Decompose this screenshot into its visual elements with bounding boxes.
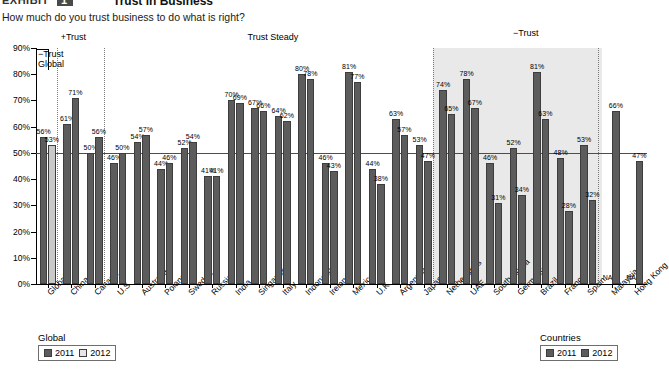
bar-value-label: 46% xyxy=(161,154,179,161)
bar-russia-2012[interactable] xyxy=(213,176,221,284)
bar-uae-2012[interactable] xyxy=(471,108,479,284)
section-header-1: Trust Steady xyxy=(248,32,299,42)
bar-value-label: 66% xyxy=(607,102,625,109)
bar-south-korea-2012[interactable] xyxy=(495,203,503,284)
bar-china-2011[interactable] xyxy=(63,124,71,284)
bar-germany-2012[interactable] xyxy=(518,195,526,284)
bar-malaysia-2012[interactable] xyxy=(612,111,620,284)
bar-france-2011[interactable] xyxy=(557,158,565,284)
bar-value-label: 28% xyxy=(560,202,578,209)
y-axis-tick-label: 70% xyxy=(0,95,30,105)
bar-global-2011[interactable] xyxy=(40,137,48,284)
bar-sweden-2011[interactable] xyxy=(181,148,189,284)
y-axis-tick xyxy=(31,179,36,180)
bar-value-label: 41% xyxy=(208,167,226,174)
bar-value-label: 47% xyxy=(419,152,437,159)
y-axis-tick-label: 80% xyxy=(0,69,30,79)
bar-south-korea-2011[interactable] xyxy=(486,163,494,284)
y-axis-tick-label: 30% xyxy=(0,200,30,210)
bar-value-label: 77% xyxy=(349,73,367,80)
bar-poland-2011[interactable] xyxy=(157,169,165,284)
bar-u-s--2012[interactable] xyxy=(119,153,127,284)
legend-right: 2011 2012 xyxy=(540,345,618,361)
legend-swatch-2012 xyxy=(79,349,87,357)
exhibit-header: EXHIBIT 1 Trust in Business xyxy=(0,0,650,10)
bar-argentina-2011[interactable] xyxy=(392,119,400,284)
bar-value-label: 38% xyxy=(372,175,390,182)
bar-china-2012[interactable] xyxy=(72,98,80,284)
y-axis-tick-label: 90% xyxy=(0,43,30,53)
bar-indonesia-2011[interactable] xyxy=(298,74,306,284)
bar-uae-2011[interactable] xyxy=(463,79,471,284)
bar-germany-2011[interactable] xyxy=(510,148,518,284)
bar-india-2012[interactable] xyxy=(236,103,244,284)
bar-france-2012[interactable] xyxy=(565,211,573,284)
bar-indonesia-2012[interactable] xyxy=(307,79,315,284)
bar-russia-2011[interactable] xyxy=(204,176,212,284)
bar-value-label: 53% xyxy=(43,136,61,143)
bar-australia-2011[interactable] xyxy=(134,142,142,284)
bar-value-label: 81% xyxy=(340,63,358,70)
section-header-2: −Trust xyxy=(513,28,538,38)
bar-singapore-2012[interactable] xyxy=(260,111,268,284)
bar-value-label: 31% xyxy=(490,194,508,201)
bar-u-s--2011[interactable] xyxy=(110,163,118,284)
bar-value-label: 48% xyxy=(552,149,570,156)
bar-poland-2012[interactable] xyxy=(166,163,174,284)
bar-italy-2011[interactable] xyxy=(275,116,283,284)
legend-label-2011: 2011 xyxy=(55,348,74,358)
bar-value-label: 32% xyxy=(584,191,602,198)
y-axis-tick xyxy=(31,232,36,233)
bar-ireland-2011[interactable] xyxy=(322,163,330,284)
bar-spain-2012[interactable] xyxy=(589,200,597,284)
legend-left-title: Global xyxy=(38,332,65,343)
legend-right-title: Countries xyxy=(540,332,581,343)
chart-subtitle: How much do you trust business to do wha… xyxy=(2,11,245,23)
bar-spain-2011[interactable] xyxy=(580,145,588,284)
bar-value-label: 74% xyxy=(434,81,452,88)
bar-value-label: 65% xyxy=(443,105,461,112)
section-divider xyxy=(598,48,599,285)
page-title: Trust in Business xyxy=(113,0,213,8)
bar-value-label: 78% xyxy=(302,70,320,77)
bar-singapore-2011[interactable] xyxy=(251,108,259,284)
bar-mexico-2012[interactable] xyxy=(354,82,362,284)
bar-canada-2011[interactable] xyxy=(87,153,95,284)
bar-u-k--2012[interactable] xyxy=(377,184,385,284)
legend-item-countries-2011: 2011 xyxy=(546,348,576,358)
bar-japan-2012[interactable] xyxy=(424,161,432,284)
legend-label-2012: 2012 xyxy=(90,348,110,358)
legend-item-2012: 2012 xyxy=(79,348,110,358)
bar-italy-2012[interactable] xyxy=(283,121,291,284)
bar-value-label: 53% xyxy=(411,136,429,143)
bar-netherlands-2012[interactable] xyxy=(448,114,456,284)
bar-value-label: 34% xyxy=(513,186,531,193)
bar-mexico-2011[interactable] xyxy=(345,72,353,284)
bar-value-label: 56% xyxy=(90,128,108,135)
bar-value-label: 56% xyxy=(35,128,53,135)
bar-sweden-2012[interactable] xyxy=(189,142,197,284)
bar-global-2012[interactable] xyxy=(48,145,56,284)
bar-ireland-2012[interactable] xyxy=(330,171,338,284)
y-axis-tick xyxy=(31,48,36,49)
bar-netherlands-2011[interactable] xyxy=(439,90,447,284)
bar-value-label: 63% xyxy=(537,110,555,117)
y-axis-tick-label: 60% xyxy=(0,122,30,132)
y-axis-tick-label: 10% xyxy=(0,253,30,263)
y-axis-tick-label: 50% xyxy=(0,148,30,158)
bar-brazil-2011[interactable] xyxy=(533,72,541,284)
legend-left: 2011 2012 xyxy=(38,345,116,361)
y-axis-tick-label: 40% xyxy=(0,174,30,184)
bar-australia-2012[interactable] xyxy=(142,135,150,284)
y-axis-tick xyxy=(31,74,36,75)
bar-value-label: 50% xyxy=(114,144,132,151)
bar-argentina-2012[interactable] xyxy=(401,135,409,284)
bar-hong-kong-2012[interactable] xyxy=(636,161,644,284)
bar-japan-2011[interactable] xyxy=(416,145,424,284)
bar-value-label: 47% xyxy=(631,152,649,159)
bar-india-2011[interactable] xyxy=(228,100,236,284)
legend-swatch-2011 xyxy=(44,349,52,357)
bar-brazil-2012[interactable] xyxy=(542,119,550,284)
bar-u-k--2011[interactable] xyxy=(369,169,377,284)
bar-canada-2012[interactable] xyxy=(95,137,103,284)
